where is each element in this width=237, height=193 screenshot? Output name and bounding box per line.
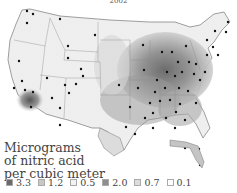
- legend-swatch: [38, 179, 45, 186]
- legend-label: 0.7: [144, 177, 159, 188]
- legend-label: 2.0: [112, 177, 127, 188]
- legend-label: 3.3: [16, 177, 31, 188]
- legend-label: 1.2: [48, 177, 63, 188]
- legend-item-0-1: 0.1: [167, 177, 192, 188]
- legend-swatch: [102, 179, 109, 186]
- legend-swatch: [167, 179, 174, 186]
- legend-label: 0.5: [80, 177, 95, 188]
- legend-item-3-3: 3.3: [6, 177, 31, 188]
- legend-item-1-2: 1.2: [38, 177, 63, 188]
- legend-label: 0.1: [177, 177, 192, 188]
- legend-swatch: [6, 179, 13, 186]
- legend-item-0-5: 0.5: [70, 177, 95, 188]
- legend: 3.3 1.2 0.5 2.0 0.7 0.1: [6, 177, 199, 188]
- legend-item-2-0: 2.0: [102, 177, 127, 188]
- legend-swatch: [134, 179, 141, 186]
- legend-swatch: [70, 179, 77, 186]
- legend-title: Micrograms of nitric acid per cubic mete…: [4, 141, 105, 180]
- legend-item-0-7: 0.7: [134, 177, 159, 188]
